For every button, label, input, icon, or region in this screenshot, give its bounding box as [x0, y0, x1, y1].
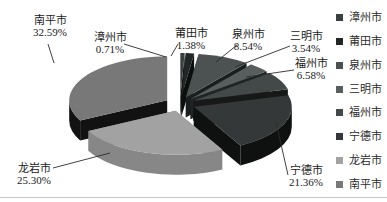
slice-percent-label-0: 0.71%: [96, 43, 124, 55]
slice-percent-label-7: 32.59%: [33, 26, 67, 38]
legend-item-0: 漳州市: [336, 12, 382, 23]
slice-name-label-4: 福州市: [295, 56, 328, 69]
legend-item-4: 福州市: [336, 107, 382, 118]
legend-item-5: 宁德市: [336, 131, 382, 142]
legend-marker-icon: [336, 109, 343, 116]
slice-name-label-1: 莆田市: [175, 26, 208, 39]
legend-item-label: 三明市: [349, 84, 382, 95]
legend-item-label: 莆田市: [349, 36, 382, 47]
legend-marker-icon: [336, 38, 343, 45]
slice-name-label-5: 宁德市: [290, 163, 323, 176]
slice-percent-label-4: 6.58%: [297, 69, 325, 81]
legend-item-6: 龙岩市: [336, 155, 382, 166]
slice-percent-label-1: 1.38%: [177, 39, 205, 51]
slice-percent-label-3: 3.54%: [292, 42, 320, 54]
slice-name-label-0: 漳州市: [94, 30, 127, 43]
legend-item-7: 南平市: [336, 179, 382, 190]
legend: 漳州市莆田市泉州市三明市福州市宁德市龙岩市南平市: [336, 12, 382, 190]
legend-marker-icon: [336, 86, 343, 93]
legend-item-label: 宁德市: [349, 131, 382, 142]
slice-name-label-2: 泉州市: [232, 27, 265, 40]
slice-percent-label-6: 25.30%: [17, 174, 51, 186]
callout-line-7: [48, 44, 54, 63]
slice-name-label-6: 龙岩市: [18, 161, 51, 174]
legend-item-label: 漳州市: [349, 12, 382, 23]
legend-item-3: 三明市: [336, 84, 382, 95]
legend-item-label: 福州市: [349, 107, 382, 118]
slice-percent-label-2: 8.54%: [234, 40, 262, 52]
legend-marker-icon: [336, 62, 343, 69]
slice-percent-label-5: 21.36%: [289, 176, 323, 188]
pie-chart-figure: 漳州市0.71%莆田市1.38%泉州市8.54%三明市3.54%福州市6.58%…: [0, 0, 387, 202]
legend-marker-icon: [336, 14, 343, 21]
legend-marker-icon: [336, 157, 343, 164]
callout-line-0: [124, 44, 166, 57]
slice-name-label-3: 三明市: [290, 29, 323, 42]
legend-item-label: 龙岩市: [349, 155, 382, 166]
legend-item-2: 泉州市: [336, 60, 382, 71]
legend-item-1: 莆田市: [336, 36, 382, 47]
pie-3d-chart: 漳州市0.71%莆田市1.38%泉州市8.54%三明市3.54%福州市6.58%…: [0, 0, 387, 202]
legend-marker-icon: [336, 133, 343, 140]
figure-bottom-rule: [0, 197, 387, 198]
legend-item-label: 南平市: [349, 179, 382, 190]
legend-item-label: 泉州市: [349, 60, 382, 71]
callout-line-6: [53, 153, 110, 168]
legend-marker-icon: [336, 181, 343, 188]
slice-name-label-7: 南平市: [34, 13, 67, 26]
